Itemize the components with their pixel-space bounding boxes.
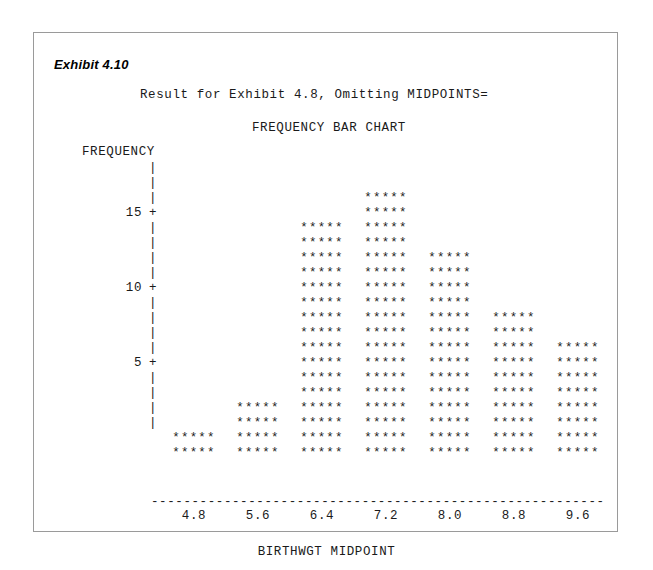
- y-axis-tick-glyph: |: [142, 236, 164, 251]
- bar-segment: *****: [300, 446, 344, 461]
- bar-segment: *****: [492, 326, 536, 341]
- bar-segment: *****: [300, 266, 344, 281]
- bar-segment: *****: [556, 356, 600, 371]
- bar-segment: *****: [364, 281, 408, 296]
- x-axis-title: BIRTHWGT MIDPOINT: [34, 545, 619, 559]
- report-title: Result for Exhibit 4.8, Omitting MIDPOIN…: [140, 88, 488, 102]
- x-axis-tick-label: 4.8: [162, 509, 226, 523]
- y-axis-tick: 10+: [84, 281, 164, 296]
- y-axis-tick-glyph: |: [142, 371, 164, 386]
- bar-segment: *****: [428, 326, 472, 341]
- y-axis-tick-glyph: |: [142, 311, 164, 326]
- bar-segment: *****: [364, 296, 408, 311]
- y-axis-tick: 5+: [84, 356, 164, 371]
- bar-column: ****************************************: [546, 341, 610, 461]
- bar-segment: *****: [300, 221, 344, 236]
- bar-segment: *****: [300, 236, 344, 251]
- bar-segment: *****: [300, 416, 344, 431]
- y-axis-gridmark: |: [84, 371, 164, 386]
- bar-segment: *****: [300, 341, 344, 356]
- bar-column: ****************************************…: [418, 251, 482, 461]
- bar-segment: *****: [556, 446, 600, 461]
- y-axis-tick-glyph: +: [142, 206, 164, 221]
- y-axis-tick-glyph: |: [142, 251, 164, 266]
- bar-segment: *****: [428, 251, 472, 266]
- bar-segment: *****: [300, 356, 344, 371]
- bar-segment: *****: [364, 236, 408, 251]
- bar-segment: *****: [300, 281, 344, 296]
- y-axis-tick-glyph: +: [142, 356, 164, 371]
- bar-segment: *****: [556, 431, 600, 446]
- bar-segment: *****: [428, 386, 472, 401]
- bar-segment: *****: [300, 296, 344, 311]
- x-axis-rule: ----------------------------------------…: [151, 495, 603, 509]
- bar-segment: *****: [364, 206, 408, 221]
- bar-segment: *****: [428, 356, 472, 371]
- bar-segment: *****: [492, 401, 536, 416]
- y-axis-tick-glyph: |: [142, 386, 164, 401]
- bar-segment: *****: [556, 416, 600, 431]
- y-axis-tick-glyph: |: [142, 416, 164, 431]
- y-axis-tick-glyph: |: [142, 296, 164, 311]
- bar-segment: *****: [364, 356, 408, 371]
- bar-segment: *****: [172, 431, 216, 446]
- bar-segment: *****: [492, 311, 536, 326]
- y-axis-gridmark: |: [84, 221, 164, 236]
- y-axis-tick-glyph: |: [142, 161, 164, 176]
- bar-segment: *****: [492, 356, 536, 371]
- y-axis-gridmark: |: [84, 326, 164, 341]
- y-axis-tick-label: 15: [98, 206, 142, 221]
- bar-segment: *****: [428, 266, 472, 281]
- bar-segment: *****: [364, 446, 408, 461]
- bar-segment: *****: [364, 191, 408, 206]
- bar-segment: *****: [364, 266, 408, 281]
- bar-segment: *****: [428, 341, 472, 356]
- bar-column: **********: [162, 431, 226, 461]
- x-axis-tick-labels: 4.85.66.47.28.08.89.6: [162, 509, 610, 523]
- bar-segment: *****: [428, 446, 472, 461]
- y-axis-gridmark: |: [84, 161, 164, 176]
- y-axis-tick-label: 5: [98, 356, 142, 371]
- bar-segment: *****: [364, 326, 408, 341]
- y-axis-tick-glyph: |: [142, 341, 164, 356]
- exhibit-label: Exhibit 4.10: [54, 57, 129, 72]
- y-axis-tick-glyph: |: [142, 221, 164, 236]
- bar-segment: *****: [428, 296, 472, 311]
- y-axis-tick-glyph: |: [142, 266, 164, 281]
- bar-segment: *****: [300, 431, 344, 446]
- bar-segment: *****: [428, 371, 472, 386]
- bar-segment: *****: [492, 446, 536, 461]
- bar-column: ****************************************…: [482, 311, 546, 461]
- y-axis: |||15+||||10+||||5+||||: [84, 161, 164, 431]
- y-axis-tick-glyph: +: [142, 281, 164, 296]
- y-axis-gridmark: |: [84, 386, 164, 401]
- y-axis-gridmark: |: [84, 341, 164, 356]
- y-axis-gridmark: |: [84, 266, 164, 281]
- bar-column: ****************************************…: [290, 221, 354, 461]
- bar-segment: *****: [364, 311, 408, 326]
- bar-segment: *****: [236, 431, 280, 446]
- bar-segment: *****: [364, 341, 408, 356]
- x-axis-tick-label: 6.4: [290, 509, 354, 523]
- y-axis-tick-label: 10: [98, 281, 142, 296]
- bar-series: ****************************************…: [162, 161, 610, 461]
- bar-segment: *****: [492, 341, 536, 356]
- bar-segment: *****: [364, 416, 408, 431]
- bar-segment: *****: [428, 401, 472, 416]
- bar-segment: *****: [556, 386, 600, 401]
- bar-segment: *****: [300, 371, 344, 386]
- y-axis-tick-glyph: |: [142, 176, 164, 191]
- bar-segment: *****: [172, 446, 216, 461]
- y-axis-tick-glyph: |: [142, 326, 164, 341]
- bar-segment: *****: [300, 311, 344, 326]
- bar-segment: *****: [428, 416, 472, 431]
- bar-segment: *****: [428, 431, 472, 446]
- y-axis-gridmark: |: [84, 191, 164, 206]
- y-axis-gridmark: |: [84, 416, 164, 431]
- x-axis-tick-label: 7.2: [354, 509, 418, 523]
- bar-segment: *****: [300, 401, 344, 416]
- x-axis-tick-label: 9.6: [546, 509, 610, 523]
- y-axis-gridmark: |: [84, 401, 164, 416]
- bar-segment: *****: [556, 371, 600, 386]
- bar-segment: *****: [492, 371, 536, 386]
